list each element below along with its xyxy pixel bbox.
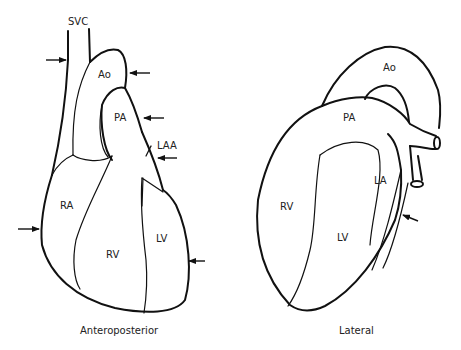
heart-outline-lat — [257, 106, 401, 310]
label-ra: RA — [60, 200, 74, 211]
pa-right-wall — [125, 88, 142, 132]
caption-lateral: Lateral — [339, 325, 374, 336]
label-svc: SVC — [68, 16, 88, 27]
label-rv-ap: RV — [106, 249, 119, 260]
ra-rv-boundary — [74, 156, 112, 289]
vessel-tube-2 — [410, 146, 422, 180]
vessel-end-1 — [434, 137, 440, 149]
label-la: LA — [374, 175, 387, 186]
pa-top-lat — [322, 97, 436, 136]
pa-outline — [101, 88, 125, 160]
label-laa: LAA — [157, 140, 177, 151]
ao-base-curve — [73, 155, 112, 161]
label-lv-lat: LV — [337, 232, 348, 243]
label-ao-ap: Ao — [98, 69, 111, 80]
arrow-esophagus — [403, 215, 418, 221]
rv-lv-boundary-lat — [288, 155, 320, 306]
vessel-end-2 — [411, 181, 423, 187]
laa-inner — [142, 178, 163, 206]
aorta-inner-left — [73, 62, 90, 155]
label-lv-ap: LV — [156, 233, 167, 244]
anteroposterior-view: SVC Ao PA LAA RA RV LV Anteroposterior — [18, 16, 205, 336]
label-ao-lat: Ao — [383, 62, 396, 73]
svc-left-wall — [52, 31, 68, 175]
lateral-view: Ao PA LA RV LV Lateral — [257, 47, 440, 336]
vessel-tube-1 — [410, 146, 436, 149]
svc-right-wall — [89, 29, 90, 62]
label-rv-lat: RV — [280, 201, 293, 212]
heart-diagram: SVC Ao PA LAA RA RV LV Anteroposterior — [0, 0, 461, 350]
lv-la-inner — [320, 142, 380, 245]
caption-anteroposterior: Anteroposterior — [80, 325, 159, 336]
label-pa-lat: PA — [343, 112, 355, 123]
aorta-outer-lat — [322, 47, 440, 128]
label-pa-ap: PA — [114, 112, 126, 123]
